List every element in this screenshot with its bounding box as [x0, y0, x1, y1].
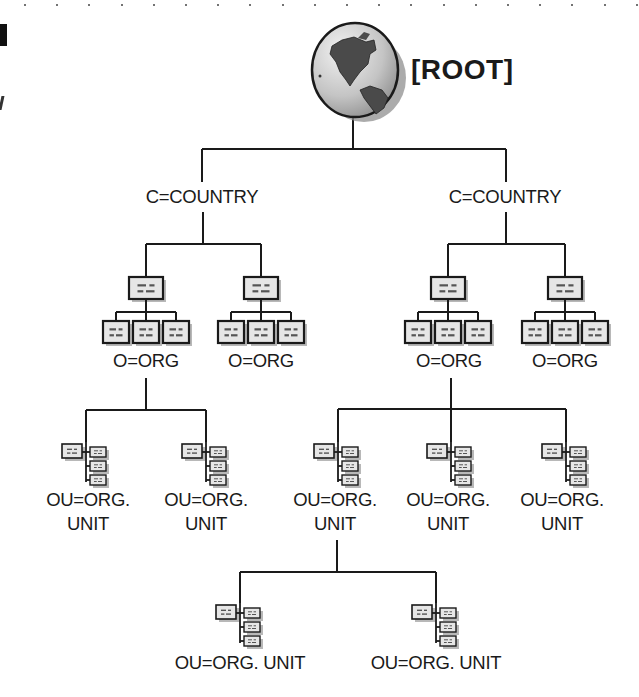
org-chart-icon	[510, 275, 620, 347]
org-unit-label: OU=ORG. UNIT	[356, 652, 516, 674]
org-unit-label: OU=ORG. UNIT	[512, 488, 612, 536]
org-unit-label-line1: OU=ORG.	[398, 488, 498, 512]
globe-icon	[308, 20, 408, 124]
org-unit-label: OU=ORG. UNIT	[160, 652, 320, 674]
org-unit-label-line2: UNIT	[38, 512, 138, 536]
org-unit-label-line1: OU=ORG.	[512, 488, 612, 512]
root-label: [ROOT]	[411, 54, 514, 86]
org-unit-icon	[212, 603, 272, 653]
org-unit-label: OU=ORG. UNIT	[38, 488, 138, 536]
org-unit-icon	[538, 442, 598, 492]
directory-tree-diagram: [ROOT] C=COUNTRY C=COUNTRY O=ORG O=ORG O…	[0, 0, 639, 697]
org-chart-icon	[91, 275, 201, 347]
org-label: O=ORG	[100, 350, 192, 372]
org-unit-label: OU=ORG. UNIT	[156, 488, 256, 536]
org-label: O=ORG	[403, 350, 495, 372]
country-label-left: C=COUNTRY	[137, 186, 267, 208]
org-unit-label: OU=ORG. UNIT	[398, 488, 498, 536]
org-unit-label-line2: UNIT	[512, 512, 612, 536]
org-unit-icon	[310, 442, 370, 492]
org-unit-label-line1: OU=ORG.	[156, 488, 256, 512]
org-unit-icon	[58, 442, 118, 492]
org-chart-icon	[393, 275, 503, 347]
org-label: O=ORG	[519, 350, 611, 372]
org-unit-icon	[423, 442, 483, 492]
country-label-right: C=COUNTRY	[440, 186, 570, 208]
org-unit-label-line1: OU=ORG.	[285, 488, 385, 512]
org-unit-icon	[408, 603, 468, 653]
org-unit-label-line2: UNIT	[285, 512, 385, 536]
org-unit-label-line2: UNIT	[156, 512, 256, 536]
org-unit-label-line2: UNIT	[398, 512, 498, 536]
org-unit-icon	[178, 442, 238, 492]
org-unit-label: OU=ORG. UNIT	[285, 488, 385, 536]
org-chart-icon	[206, 275, 316, 347]
org-label: O=ORG	[215, 350, 307, 372]
org-unit-label-line1: OU=ORG.	[38, 488, 138, 512]
